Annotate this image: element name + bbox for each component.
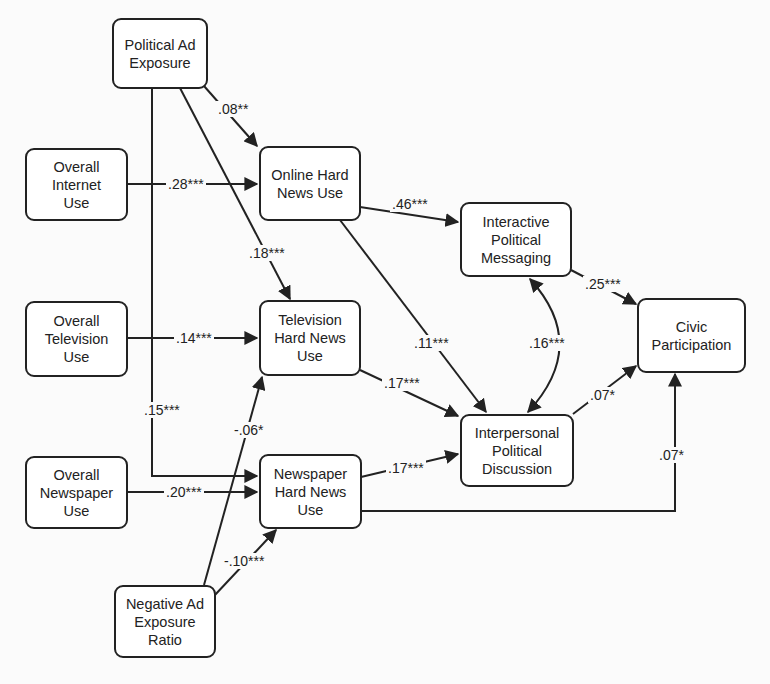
label-online-interpersonal: .11***: [412, 335, 451, 351]
label-news-interpersonal: .17***: [386, 460, 426, 476]
label-internet-online: .28***: [166, 176, 206, 192]
label-pae-tv: .18***: [247, 245, 287, 261]
node-interpersonal-political-discussion: Interpersonal Political Discussion: [460, 414, 574, 487]
node-overall-newspaper-use: Overall Newspaper Use: [25, 456, 128, 529]
label-interactive-civic: .25***: [583, 276, 623, 292]
label-tv-tv: .14***: [174, 330, 214, 346]
label-pae-news: .15***: [142, 402, 182, 418]
label-neg-news: -.10***: [222, 553, 266, 569]
node-interactive-political-messaging: Interactive Political Messaging: [460, 202, 572, 277]
label-news-news: .20***: [164, 484, 204, 500]
node-negative-ad-exposure-ratio: Negative Ad Exposure Ratio: [114, 585, 216, 658]
label-interactive-interpersonal: .16***: [527, 335, 567, 351]
label-tv-interpersonal: .17***: [382, 375, 422, 391]
node-overall-television-use: Overall Television Use: [25, 301, 128, 377]
node-newspaper-hard-news-use: Newspaper Hard News Use: [259, 454, 362, 529]
node-online-hard-news-use: Online Hard News Use: [259, 146, 361, 221]
label-neg-tv: -.06*: [232, 422, 266, 438]
label-interpersonal-civic: .07*: [588, 387, 617, 403]
label-online-interactive: .46***: [390, 196, 430, 212]
node-political-ad-exposure: Political Ad Exposure: [112, 18, 208, 89]
node-civic-participation: Civic Participation: [637, 298, 746, 373]
path-diagram: Political Ad Exposure Overall Internet U…: [0, 0, 770, 684]
label-pae-online: .08**: [216, 101, 250, 117]
node-overall-internet-use: Overall Internet Use: [25, 148, 128, 221]
node-television-hard-news-use: Television Hard News Use: [259, 300, 361, 376]
label-news-civic: .07*: [657, 447, 686, 463]
